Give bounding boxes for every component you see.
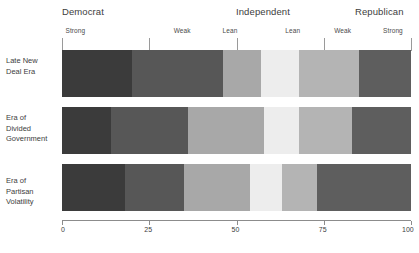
bar-segment [62,107,111,154]
group-header-democrat: Democrat [62,6,104,17]
x-tick-25 [149,221,150,225]
strength-header-weak-republican: Weak [334,27,351,34]
x-tick-label-0: 0 [61,226,65,233]
strength-header-lean-democrat: Lean [223,27,238,34]
group-header-republican: Republican [355,6,404,17]
strength-header-strong-democrat: Strong [65,27,85,34]
row-label-era-of-partisan-volatility: Era of Partisan Volatility [6,176,60,208]
bar-segment [125,164,184,211]
x-tick-label-50: 50 [232,226,240,233]
bar-segment [188,107,265,154]
bar-segment [299,107,351,154]
plot-area [62,50,411,220]
bar-segment [62,164,125,211]
bar-segment [299,50,358,97]
bar-segment [223,50,261,97]
bar-segment [317,164,411,211]
bar-segment [261,50,299,97]
bar-segment [264,107,299,154]
chart-caption [6,243,419,253]
x-tick-0 [62,221,63,225]
bar-row [62,107,411,154]
group-header-independent: Independent [236,6,290,17]
x-tick-label-25: 25 [144,226,152,233]
bar-segment [250,164,281,211]
bar-row [62,50,411,97]
strength-header-strong-republican: Strong [383,27,403,34]
strength-header-lean-republican: Lean [285,27,300,34]
x-tick-50 [237,221,238,225]
bar-segment [111,107,188,154]
party-identification-chart: Democrat Independent Republican Strong W… [0,0,419,253]
bar-segment [352,107,411,154]
row-label-era-of-divided-government: Era of Divided Government [6,113,60,145]
x-tick-100 [411,221,412,225]
bar-segment [62,50,132,97]
row-label-late-new-deal-era: Late New Deal Era [6,56,60,77]
bar-segment [359,50,411,97]
x-tick-label-75: 75 [319,226,327,233]
bar-segment [132,50,223,97]
header-tick-100 [411,38,412,51]
bar-segment [282,164,317,211]
x-tick-label-100: 100 [402,226,414,233]
bar-row [62,164,411,211]
strength-header-weak-democrat: Weak [174,27,191,34]
x-tick-75 [324,221,325,225]
bar-segment [184,164,250,211]
